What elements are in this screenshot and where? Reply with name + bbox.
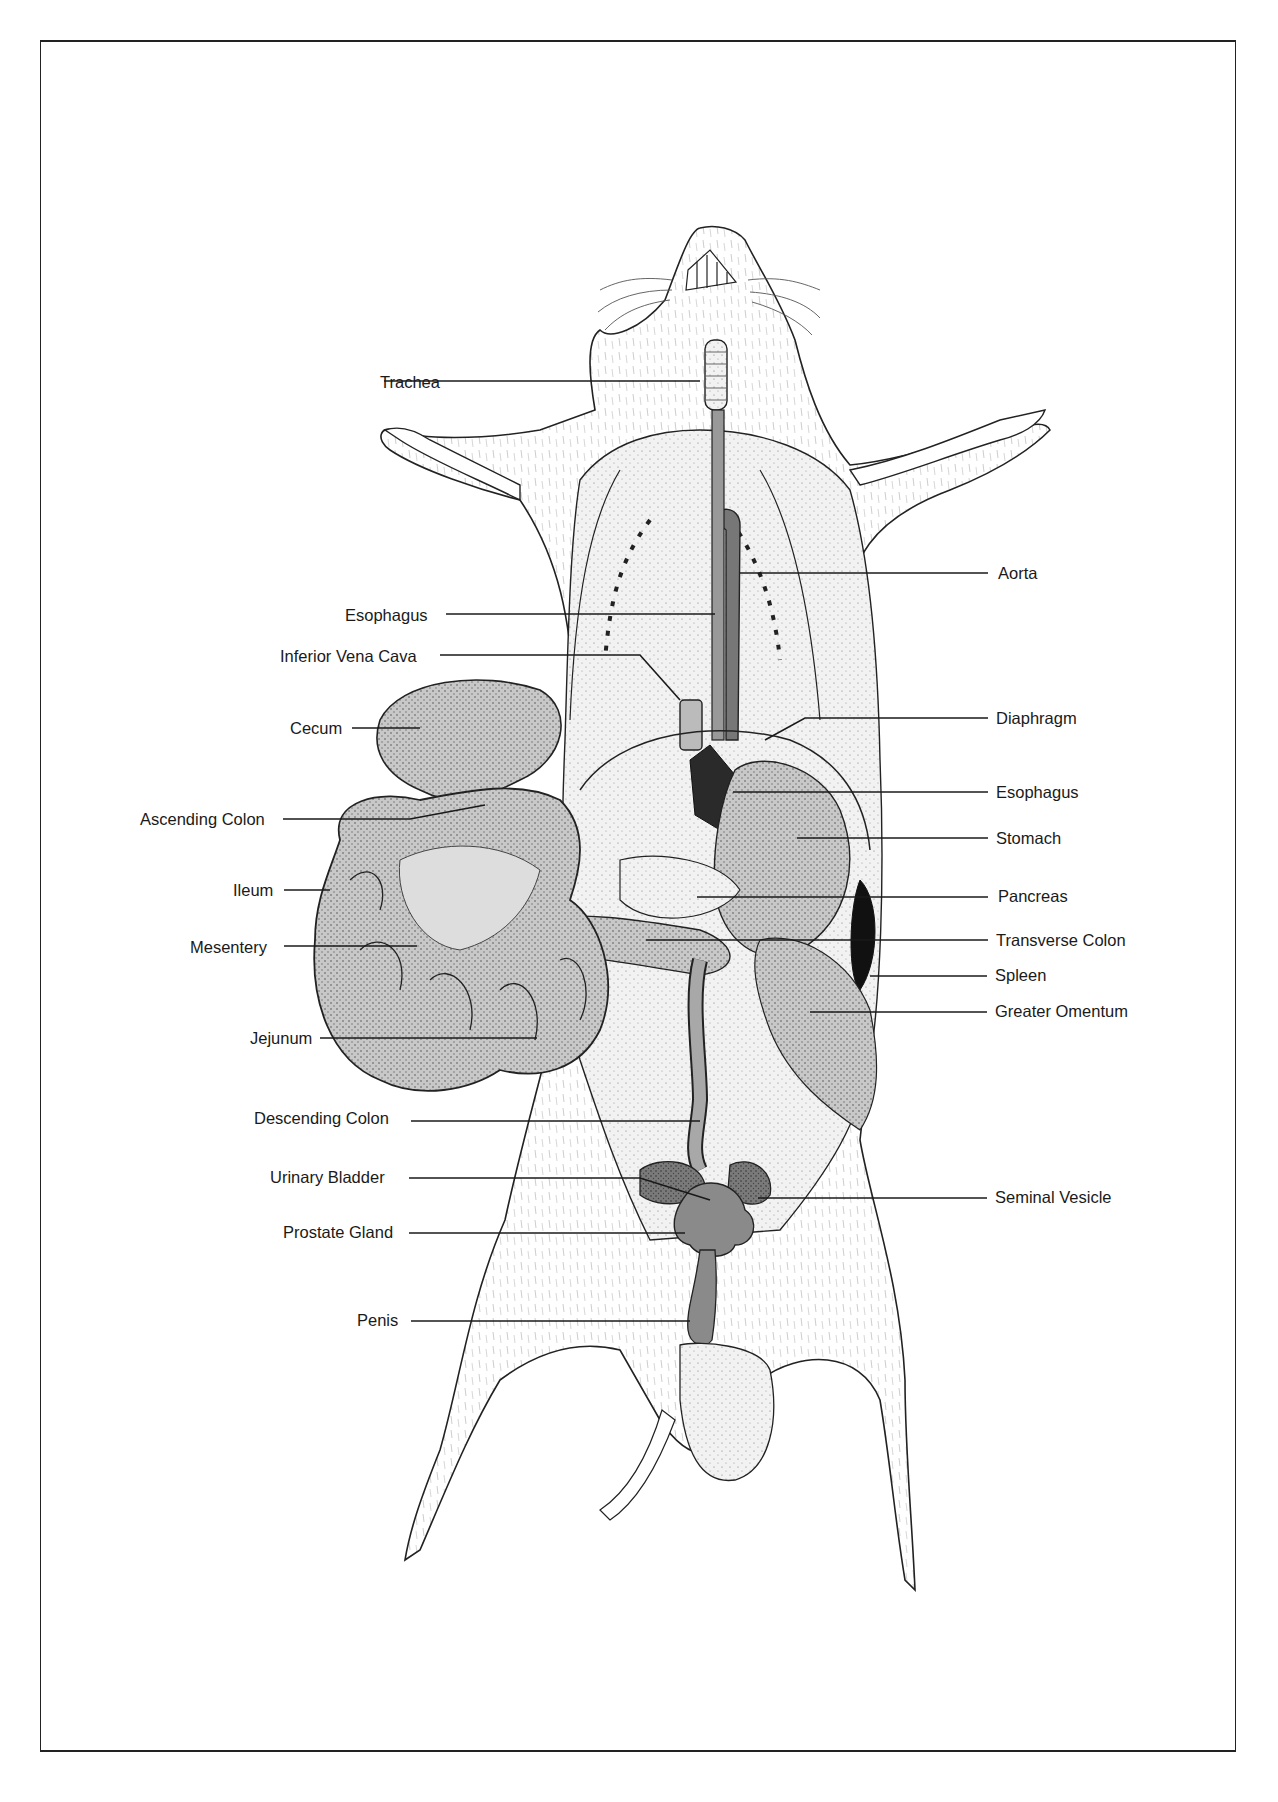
label-jejunum: Jejunum: [250, 1028, 312, 1048]
label-greater-omentum: Greater Omentum: [995, 1001, 1128, 1021]
label-aorta: Aorta: [998, 563, 1037, 583]
label-diaphragm: Diaphragm: [996, 708, 1077, 728]
label-ascending-colon: Ascending Colon: [140, 809, 265, 829]
vena-cava-shape: [680, 700, 702, 750]
tail-shape: [600, 1410, 675, 1520]
label-cecum: Cecum: [290, 718, 342, 738]
label-spleen: Spleen: [995, 965, 1046, 985]
label-transverse-colon: Transverse Colon: [996, 930, 1126, 950]
label-pancreas: Pancreas: [998, 886, 1068, 906]
label-penis: Penis: [357, 1310, 398, 1330]
label-descending-colon: Descending Colon: [254, 1108, 389, 1128]
label-stomach: Stomach: [996, 828, 1061, 848]
trachea-shape: [705, 340, 727, 410]
scrotum-shape: [680, 1343, 774, 1480]
cecum-shape: [377, 680, 561, 801]
label-urinary-bladder: Urinary Bladder: [270, 1167, 385, 1187]
label-prostate-gland: Prostate Gland: [283, 1222, 393, 1242]
label-esophagus-lower: Esophagus: [996, 782, 1079, 802]
rat-anatomy-illustration: [0, 0, 1278, 1802]
label-inferior-vena-cava: Inferior Vena Cava: [280, 646, 417, 666]
label-esophagus-upper: Esophagus: [345, 605, 428, 625]
esophagus-shape: [712, 410, 724, 740]
label-trachea: Trachea: [380, 372, 440, 392]
label-mesentery: Mesentery: [190, 937, 267, 957]
label-seminal-vesicle: Seminal Vesicle: [995, 1187, 1111, 1207]
label-ileum: Ileum: [233, 880, 273, 900]
